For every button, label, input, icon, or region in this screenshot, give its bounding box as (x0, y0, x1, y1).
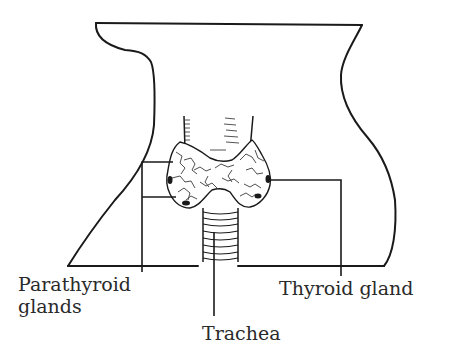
parathyroid-gland-upper-left (168, 176, 173, 184)
parathyroid-label-line2: glands (18, 295, 131, 317)
parathyroid-gland-lower-right (255, 194, 262, 199)
thyroid-gland-label: Thyroid gland (279, 277, 413, 299)
larynx (184, 116, 253, 150)
body-outline (68, 23, 396, 266)
thyroid-leader (268, 180, 341, 276)
trachea-label: Trachea (202, 322, 281, 344)
parathyroid-glands-label: Parathyroid glands (18, 273, 131, 317)
trachea (203, 208, 238, 262)
parathyroid-label-line1: Parathyroid (18, 273, 131, 295)
parathyroid-gland-lower-left (182, 201, 190, 206)
parathyroid-gland-upper-right (266, 175, 271, 183)
